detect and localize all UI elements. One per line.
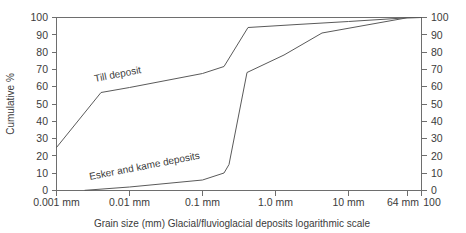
y-axis-left-label: 40	[36, 115, 48, 127]
x-axis-title: Grain size (mm) Glacial/fluvioglacial de…	[94, 218, 371, 229]
y-axis-right-label: 50	[431, 98, 443, 110]
y-axis-right-label: 60	[431, 80, 443, 92]
y-axis-right-labels: 0 10 20 30 40 50 60 70 80 90 100	[431, 11, 449, 196]
x-axis-label: 100	[423, 196, 441, 208]
y-axis-left-label: 80	[36, 46, 48, 58]
series-label-esker-and-kame-deposits: Esker and kame deposits	[88, 150, 200, 182]
series-label-till-deposit: Till deposit	[93, 64, 142, 84]
y-axis-left-label: 50	[36, 98, 48, 110]
series-labels: Till deposit Esker and kame deposits	[88, 64, 200, 182]
y-axis-right-label: 100	[431, 11, 449, 23]
y-axis-left-label: 70	[36, 63, 48, 75]
y-axis-right-label: 30	[431, 132, 443, 144]
chart-root: 0 10 20 30 40 50 60 70 80 90 100	[0, 0, 466, 233]
y-axis-right-label: 80	[431, 46, 443, 58]
x-axis-label: 0.001 mm	[33, 196, 80, 208]
y-axis-right-ticks	[422, 18, 427, 191]
y-axis-left-ticks	[52, 18, 57, 191]
y-axis-left-labels: 0 10 20 30 40 50 60 70 80 90 100	[30, 11, 48, 196]
y-axis-title: Cumulative %	[5, 73, 16, 135]
plot-frame	[57, 18, 422, 191]
x-axis-label: 1.0 mm	[258, 196, 293, 208]
y-axis-left-label: 100	[30, 11, 48, 23]
x-axis-label: 0.01 mm	[109, 196, 150, 208]
y-axis-right-label: 10	[431, 167, 443, 179]
y-axis-right-label: 90	[431, 29, 443, 41]
x-axis-label: 0.1 mm	[185, 196, 220, 208]
grain-size-cumulative-chart: 0 10 20 30 40 50 60 70 80 90 100	[0, 0, 466, 233]
x-axis-label: 64 mm	[387, 196, 419, 208]
series-line-till-deposit	[57, 18, 422, 148]
x-axis-labels: 0.001 mm 0.01 mm 0.1 mm 1.0 mm 10 mm 64 …	[33, 196, 441, 208]
y-axis-right-label: 0	[431, 184, 437, 196]
y-axis-left-label: 60	[36, 80, 48, 92]
y-axis-right-label: 70	[431, 63, 443, 75]
y-axis-left-label: 90	[36, 29, 48, 41]
x-axis-ticks	[57, 191, 422, 196]
series-group	[57, 18, 422, 191]
y-axis-right-label: 20	[431, 150, 443, 162]
y-axis-left-label: 30	[36, 132, 48, 144]
y-axis-left-label: 0	[42, 184, 48, 196]
y-axis-right-label: 40	[431, 115, 443, 127]
y-axis-left-label: 10	[36, 167, 48, 179]
y-axis-left-label: 20	[36, 150, 48, 162]
x-axis-label: 10 mm	[332, 196, 364, 208]
